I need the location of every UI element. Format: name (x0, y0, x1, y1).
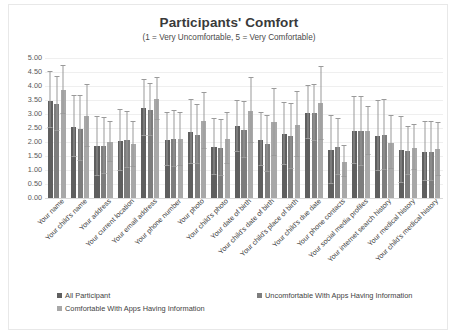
bar-item[interactable] (71, 58, 76, 198)
error-bar (220, 120, 221, 176)
bar-item[interactable] (195, 58, 200, 198)
error-bar-cap (335, 118, 340, 119)
bar-item[interactable] (412, 58, 417, 198)
bar-item[interactable] (342, 58, 347, 198)
bar-item[interactable] (405, 58, 410, 198)
error-bar-cap (405, 174, 410, 175)
error-bar (307, 86, 308, 139)
error-bar (290, 104, 291, 168)
bar-item[interactable] (335, 58, 340, 198)
legend-item[interactable]: Uncomfortable With Apps Having Informati… (257, 291, 412, 300)
bar-item[interactable] (241, 58, 246, 198)
bar-item[interactable] (101, 58, 106, 198)
bar-item[interactable] (295, 58, 300, 198)
bar-item[interactable] (107, 58, 112, 198)
y-tick-label: 2.50 (28, 124, 42, 131)
legend-item[interactable]: Comfortable With Apps Having Information (57, 304, 205, 313)
y-tick-label: 1.50 (28, 152, 42, 159)
bar-item[interactable] (382, 58, 387, 198)
error-bar-cap (61, 113, 66, 114)
bar-item[interactable] (282, 58, 287, 198)
bar-group (139, 58, 162, 198)
error-bar-cap (422, 180, 427, 181)
error-bar-cap (71, 156, 76, 157)
y-tick-label: 0.00 (28, 194, 42, 201)
error-bar-cap (342, 176, 347, 177)
bar-item[interactable] (265, 58, 270, 198)
bar-item[interactable] (118, 58, 123, 198)
bar-group (349, 58, 372, 198)
bar-item[interactable] (141, 58, 146, 198)
chart-title: Participants' Comfort (9, 15, 449, 30)
bar-item[interactable] (388, 58, 393, 198)
error-bar-cap (71, 95, 76, 96)
error-bar-cap (265, 171, 270, 172)
bar-item[interactable] (365, 58, 370, 198)
error-bar-cap (225, 163, 230, 164)
error-bar-cap (171, 110, 176, 111)
bar-item[interactable] (288, 58, 293, 198)
bar-item[interactable] (248, 58, 253, 198)
bar-item[interactable] (188, 58, 193, 198)
error-bar (320, 67, 321, 140)
error-bar-cap (271, 155, 276, 156)
bar-item[interactable] (201, 58, 206, 198)
bar-item[interactable] (352, 58, 357, 198)
chart-subtitle: (1 = Very Uncomfortable, 5 = Very Comfor… (9, 33, 449, 42)
error-bar (197, 105, 198, 164)
bar-group (302, 58, 325, 198)
error-bar (213, 119, 214, 175)
bar-group (92, 58, 115, 198)
error-bar (80, 96, 81, 160)
error-bar-cap (108, 121, 113, 122)
error-bar (331, 116, 332, 184)
error-bar-cap (78, 95, 83, 96)
error-bar (414, 125, 415, 170)
bar-item[interactable] (171, 58, 176, 198)
error-bar-cap (241, 157, 246, 158)
bar-item[interactable] (211, 58, 216, 198)
error-bar (180, 113, 181, 166)
error-bar-cap (218, 175, 223, 176)
error-bar (314, 85, 315, 141)
error-bar-cap (195, 104, 200, 105)
bar-item[interactable] (225, 58, 230, 198)
chart-frame: Participants' Comfort (1 = Very Uncomfor… (8, 4, 448, 330)
bar-item[interactable] (429, 58, 434, 198)
bar-item[interactable] (358, 58, 363, 198)
bar-item[interactable] (154, 58, 159, 198)
bar-item[interactable] (78, 58, 83, 198)
bar-item[interactable] (178, 58, 183, 198)
bar-item[interactable] (165, 58, 170, 198)
bar-item[interactable] (328, 58, 333, 198)
bar-item[interactable] (54, 58, 59, 198)
bar-item[interactable] (84, 58, 89, 198)
bar-item[interactable] (312, 58, 317, 198)
error-bar-cap (171, 166, 176, 167)
bar-item[interactable] (271, 58, 276, 198)
bar-item[interactable] (218, 58, 223, 198)
error-bar-cap (118, 170, 123, 171)
bar-item[interactable] (435, 58, 440, 198)
bar-item[interactable] (48, 58, 53, 198)
bar-item[interactable] (318, 58, 323, 198)
error-bar-cap (335, 174, 340, 175)
bar-item[interactable] (258, 58, 263, 198)
legend-swatch-icon (57, 293, 62, 298)
error-bar-cap (265, 115, 270, 116)
bar-item[interactable] (94, 58, 99, 198)
bar-item[interactable] (422, 58, 427, 198)
bar-group (209, 58, 232, 198)
error-bar-cap (241, 101, 246, 102)
bar-item[interactable] (235, 58, 240, 198)
bar-item[interactable] (375, 58, 380, 198)
bar-item[interactable] (148, 58, 153, 198)
bar-item[interactable] (124, 58, 129, 198)
error-bar-cap (124, 111, 129, 112)
bar-item[interactable] (305, 58, 310, 198)
error-bar-cap (178, 112, 183, 113)
bar-item[interactable] (131, 58, 136, 198)
bar-item[interactable] (61, 58, 66, 198)
legend-item[interactable]: All Participant (57, 291, 110, 300)
bar-item[interactable] (399, 58, 404, 198)
